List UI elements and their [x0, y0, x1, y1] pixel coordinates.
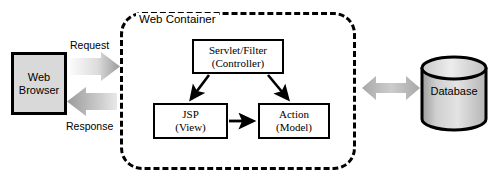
container-database-double-arrow	[362, 76, 420, 100]
response-block-arrow	[67, 87, 117, 116]
jsp-view-node: JSP (View)	[153, 103, 228, 139]
action-label: Action (Model)	[276, 108, 312, 134]
web-browser-node: Web Browser	[11, 52, 67, 115]
jsp-label: JSP (View)	[175, 108, 206, 134]
request-label: Request	[70, 39, 109, 51]
servlet-filter-label: Servlet/Filter (Controller)	[209, 44, 267, 70]
diagram-canvas: Web Container Web Browser Request Respon…	[0, 0, 492, 184]
web-container-region	[120, 12, 356, 170]
request-block-arrow	[70, 52, 120, 81]
web-browser-label: Web Browser	[19, 71, 59, 97]
action-model-node: Action (Model)	[258, 103, 330, 139]
database-label: Database	[419, 85, 489, 97]
response-label: Response	[66, 120, 113, 132]
web-container-label: Web Container	[136, 13, 219, 25]
servlet-filter-controller-node: Servlet/Filter (Controller)	[192, 39, 284, 74]
